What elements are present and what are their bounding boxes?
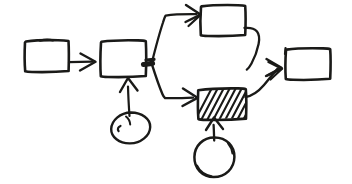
node-box-right[interactable] [285,48,331,80]
diagram-canvas [0,0,352,184]
node-ellipse-2[interactable] [194,137,234,177]
edge-box1-box2 [69,54,96,71]
sketch-surface [0,0,352,184]
node-box-2[interactable] [100,40,146,77]
node-box-1[interactable] [25,40,69,72]
edge-junction-box-hatched [152,65,198,106]
node-box-hatched[interactable] [192,84,268,126]
edge-ellipse1-box-2 [120,78,138,116]
edge-junction-box-top [152,5,201,64]
edge-box-hatched-box-right [246,62,283,97]
node-ellipse-1[interactable] [111,113,150,144]
node-box-top[interactable] [200,5,245,36]
